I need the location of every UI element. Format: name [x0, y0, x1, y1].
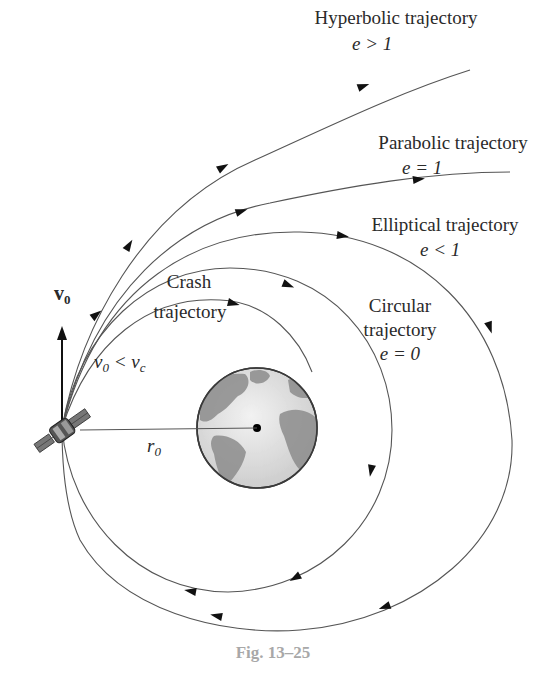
radius-label: r0: [147, 436, 161, 458]
elliptical-label: Elliptical trajectory: [371, 215, 518, 234]
circular-condition: e = 0: [380, 344, 420, 363]
velocity-condition-label: v0 < vc: [94, 352, 145, 374]
circular-label-line1: Circular: [369, 296, 431, 315]
circular-label-line2: trajectory: [364, 320, 437, 339]
crash-label-line2: trajectory: [154, 302, 227, 321]
figure-caption: Fig. 13–25: [236, 643, 311, 663]
parabolic-label: Parabolic trajectory: [378, 133, 527, 152]
hyperbolic-label: Hyperbolic trajectory: [314, 8, 477, 27]
hyperbolic-condition: e > 1: [352, 34, 392, 53]
crash-label-line1: Crash: [167, 272, 211, 291]
velocity-vector-label: v0: [54, 283, 71, 306]
orbit-trajectory-diagram: [0, 0, 546, 687]
elliptical-condition: e < 1: [420, 240, 460, 259]
parabolic-condition: e = 1: [402, 158, 442, 177]
